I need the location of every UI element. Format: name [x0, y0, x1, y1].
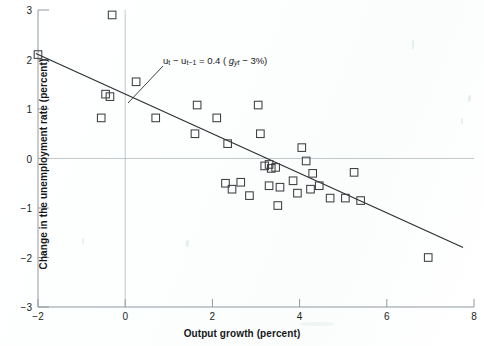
data-point-marker [193, 101, 201, 109]
data-point-marker [246, 192, 254, 200]
data-point-marker [152, 114, 160, 122]
data-point-marker [309, 170, 317, 178]
data-point-marker [106, 93, 114, 101]
y-tick-label: −1 [6, 203, 32, 214]
y-axis-title-wrapper: Change in the unemployment rate (percent… [33, 44, 51, 284]
data-point-marker [298, 144, 306, 152]
data-point-marker [191, 130, 199, 138]
data-point-marker [276, 183, 284, 191]
equation-equals: = 0.4 ( [199, 55, 226, 66]
x-tick-label: 0 [122, 311, 128, 322]
data-point-marker [237, 178, 245, 186]
data-point-marker [257, 130, 265, 138]
data-point-marker [274, 202, 282, 210]
equation-tail: − 3%) [242, 55, 267, 66]
scatter-plot-canvas [0, 0, 484, 346]
annotation-leader-line [128, 66, 163, 103]
y-tick-label: 2 [6, 54, 32, 65]
data-point-marker [326, 194, 334, 202]
data-series-annual-observations [34, 11, 432, 261]
regression-equation-annotation: ut − ut−1 = 0.4 ( gyt − 3%) [163, 55, 267, 66]
x-tick-label: 6 [384, 311, 390, 322]
data-point-marker [265, 182, 273, 190]
data-point-marker [307, 185, 315, 193]
data-point-marker [289, 177, 297, 185]
data-point-marker [108, 11, 116, 19]
x-tick-label: 2 [210, 311, 216, 322]
equation-u-t: ut [163, 55, 170, 66]
y-axis-title: Change in the unemployment rate (percent… [38, 59, 49, 270]
x-axis-title: Output growth (percent) [0, 328, 484, 339]
x-tick-label: 8 [471, 311, 477, 322]
okun-law-scatter-figure: Output growth (percent) Change in the un… [0, 0, 484, 346]
data-point-marker [102, 90, 110, 98]
data-point-marker [350, 169, 358, 177]
regression-fit-line [36, 54, 463, 248]
data-point-marker [97, 114, 105, 122]
data-point-marker [294, 189, 302, 197]
equation-g-term: gyt [229, 55, 240, 66]
data-point-marker [254, 101, 262, 109]
data-point-marker [213, 114, 221, 122]
y-tick-label: −3 [6, 302, 32, 313]
x-tick-label: 4 [297, 311, 303, 322]
data-point-marker [132, 78, 140, 86]
equation-minus: − [173, 55, 179, 66]
y-tick-label: 0 [6, 153, 32, 164]
equation-u-t-minus-1: ut−1 [181, 55, 196, 66]
y-tick-label: 1 [6, 104, 32, 115]
data-point-marker [424, 254, 432, 262]
x-tick-label: −2 [32, 311, 43, 322]
y-tick-label: 3 [6, 5, 32, 16]
y-tick-label: −2 [6, 252, 32, 263]
